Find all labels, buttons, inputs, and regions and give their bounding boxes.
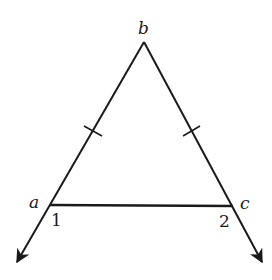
angle-label-1: 1 [51, 210, 62, 230]
tick-mark-ab [84, 126, 102, 136]
vertex-label-c: c [240, 193, 250, 213]
side-ba-extended [17, 42, 144, 262]
triangle-diagram: b a c 1 2 [0, 0, 272, 280]
side-ac [50, 205, 233, 206]
vertex-label-a: a [29, 192, 39, 212]
side-bc-extended [144, 42, 262, 262]
angle-label-2: 2 [219, 211, 230, 231]
tick-mark-bc [183, 126, 200, 136]
vertex-label-b: b [138, 18, 149, 38]
